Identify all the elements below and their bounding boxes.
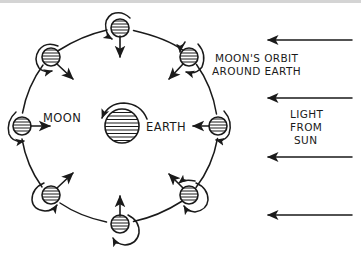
moon-position-upper-right <box>169 42 204 79</box>
moon-near-side-arrow <box>57 173 73 188</box>
earth-body <box>102 103 147 143</box>
sunlight-label-line-3: SUN <box>294 134 317 146</box>
moon-position-lower-left <box>32 173 73 211</box>
earth-label: EARTH <box>146 120 186 134</box>
sunlight-label-line-1: LIGHT <box>290 108 324 120</box>
orbit-label-line-1: MOON'S ORBIT <box>215 52 299 64</box>
moon-position-right <box>193 111 230 140</box>
moon-near-side-arrow <box>57 64 73 79</box>
orbit-label-line-2: AROUND EARTH <box>212 65 301 77</box>
diagram-canvas: EARTH <box>0 0 361 253</box>
moon-label: MOON <box>43 111 81 125</box>
astronomy-diagram: EARTH <box>0 0 361 253</box>
moon-near-side-arrow <box>169 64 183 79</box>
sunlight-label-line-2: FROM <box>290 121 322 133</box>
moon-position-bottom <box>110 196 139 245</box>
moon-position-upper-left <box>36 44 73 79</box>
moon-rotation-tick <box>179 180 195 183</box>
moon-position-top <box>106 13 130 57</box>
